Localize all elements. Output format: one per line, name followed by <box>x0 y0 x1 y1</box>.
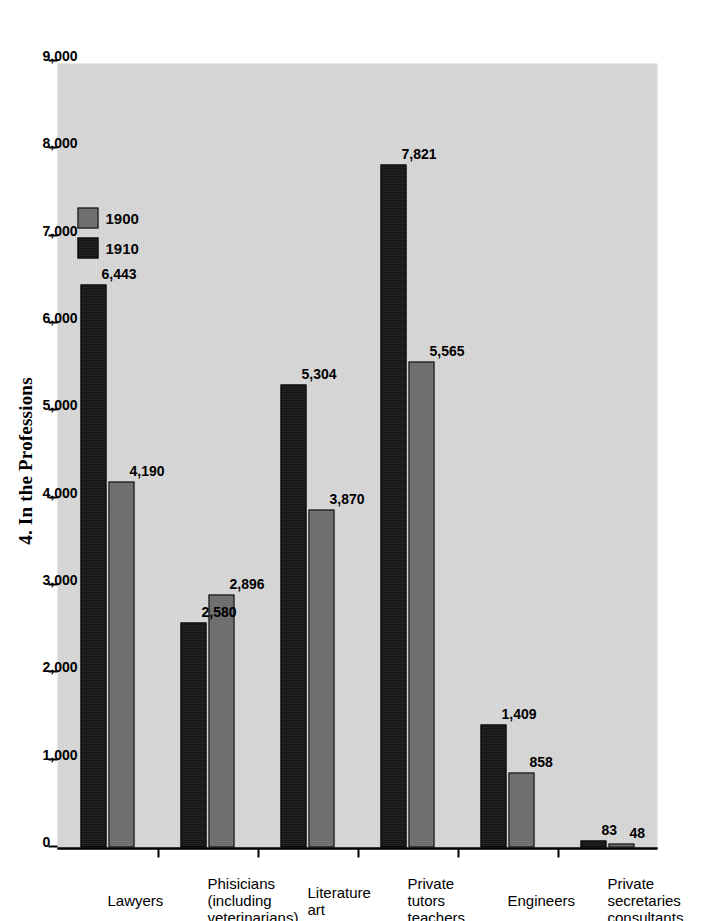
bar-1910-engineers <box>480 724 506 847</box>
category-axis-tick <box>257 848 259 857</box>
legend-entry-1900: 1900 <box>77 207 138 228</box>
value-axis-tick-label: 8,000 <box>42 134 77 150</box>
bar-value-label: 3,870 <box>329 490 364 506</box>
chart-title: 4. In the Professions <box>14 0 36 921</box>
bar-1900-lawyers <box>108 481 134 847</box>
bar-1910-private <box>580 840 606 847</box>
value-axis-tick-label: 4,000 <box>42 484 77 500</box>
bar-value-label: 6,443 <box>101 265 136 281</box>
value-axis-tick-label: 6,000 <box>42 309 77 325</box>
bar-1900-private-tutors <box>408 361 434 847</box>
value-axis-tick-label: 5,000 <box>42 396 77 412</box>
value-axis-tick-label: 0 <box>42 833 50 849</box>
bar-1910-literature <box>280 384 306 847</box>
plot-area: 19001910 <box>57 63 657 849</box>
value-axis-tick-label: 3,000 <box>42 571 77 587</box>
category-axis-tick <box>157 848 159 857</box>
bar-value-label: 5,565 <box>429 342 464 358</box>
legend-entry-1910: 1910 <box>77 237 138 258</box>
legend-swatch-1910 <box>77 237 98 258</box>
bar-1910-private-tutors <box>380 164 406 847</box>
bar-1900-engineers <box>508 772 534 847</box>
chart-legend: 19001910 <box>77 207 138 267</box>
bar-1900-literature <box>308 509 334 847</box>
bar-1910-lawyers <box>80 284 106 847</box>
category-axis <box>57 847 657 849</box>
value-axis-tick-label: 7,000 <box>42 222 77 238</box>
value-axis-tick-label: 1,000 <box>42 746 77 762</box>
bar-value-label: 4,190 <box>129 462 164 478</box>
bar-value-label: 83 <box>601 821 617 837</box>
bar-value-label: 1,409 <box>501 705 536 721</box>
bar-value-label: 2,580 <box>201 603 236 619</box>
bar-value-label: 858 <box>529 753 552 769</box>
bar-1900-phisicians <box>208 594 234 847</box>
legend-label-1900: 1900 <box>105 209 138 226</box>
value-axis-tick-label: 9,000 <box>42 47 77 63</box>
category-axis-tick <box>357 848 359 857</box>
category-axis-tick <box>557 848 559 857</box>
category-axis-tick <box>457 848 459 857</box>
bar-value-label: 48 <box>629 824 645 840</box>
legend-label-1910: 1910 <box>105 239 138 256</box>
chart-figure: 4. In the Professions 19001910 LawyersPh… <box>0 0 705 921</box>
value-axis-tick-label: 2,000 <box>42 658 77 674</box>
bar-1910-phisicians <box>180 622 206 847</box>
bar-value-label: 5,304 <box>301 365 336 381</box>
bar-1900-private <box>608 843 634 847</box>
legend-swatch-1900 <box>77 207 98 228</box>
bar-value-label: 7,821 <box>401 145 436 161</box>
bar-value-label: 2,896 <box>229 575 264 591</box>
